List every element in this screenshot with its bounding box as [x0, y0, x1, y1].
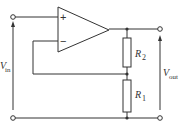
junction-dot	[125, 27, 128, 30]
junction-dot	[125, 116, 128, 119]
r1-subscript: 1	[142, 94, 146, 103]
plus-label: +	[60, 11, 66, 23]
junction-dot	[125, 72, 128, 75]
vout-subscript: out	[169, 73, 178, 81]
input-terminal-bottom	[11, 116, 16, 121]
resistor-r1	[123, 80, 131, 112]
r2-subscript: 2	[142, 53, 146, 62]
vin-subscript: in	[5, 66, 11, 74]
resistor-r2	[123, 38, 131, 67]
feedback-wire	[33, 41, 127, 74]
circuit-diagram: + − R 2 R 1 V in V out	[0, 0, 188, 131]
output-terminal-bottom	[158, 116, 163, 121]
vout-arrowhead-icon	[158, 35, 162, 41]
output-terminal-top	[158, 27, 163, 32]
minus-label: −	[60, 35, 66, 47]
r1-letter: R	[134, 89, 141, 100]
input-terminal-top	[11, 15, 16, 20]
r2-letter: R	[134, 48, 141, 59]
vin-arrowhead-icon	[11, 21, 15, 27]
